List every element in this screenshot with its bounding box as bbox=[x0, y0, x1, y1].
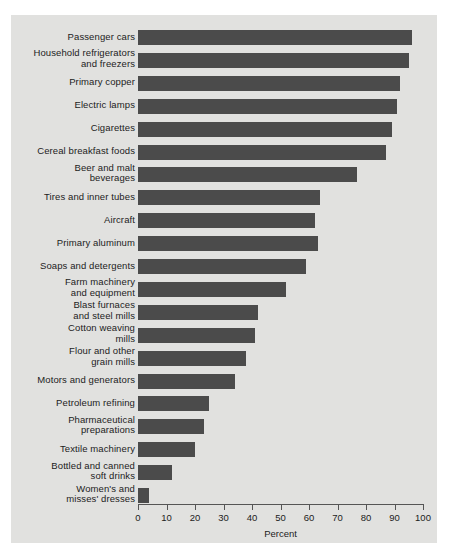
bar-category-label: Blast furnaces and steel mills bbox=[11, 301, 135, 322]
bar bbox=[138, 351, 246, 366]
x-axis-tick-label: 20 bbox=[190, 512, 201, 523]
bar-row: Flour and other grain mills bbox=[11, 346, 437, 369]
x-axis-tick bbox=[423, 504, 424, 510]
bar-category-label: Beer and malt beverages bbox=[11, 163, 135, 184]
x-axis-tick-label: 90 bbox=[389, 512, 400, 523]
bar-category-label: Cereal breakfast foods bbox=[11, 146, 135, 157]
bar-row: Cereal breakfast foods bbox=[11, 140, 437, 163]
bar-row: Primary copper bbox=[11, 71, 437, 94]
bar-category-label: Soaps and detergents bbox=[11, 260, 135, 271]
x-axis-tick-label: 0 bbox=[135, 512, 140, 523]
bar-category-label: Petroleum refining bbox=[11, 398, 135, 409]
bar-row: Primary aluminum bbox=[11, 231, 437, 254]
x-axis-tick-label: 70 bbox=[332, 512, 343, 523]
bar-category-label: Cigarettes bbox=[11, 123, 135, 134]
bar-category-label: Motors and generators bbox=[11, 375, 135, 386]
bar-category-label: Passenger cars bbox=[11, 31, 135, 42]
bar-category-label: Aircraft bbox=[11, 214, 135, 225]
bar-row: Women's and misses' dresses bbox=[11, 483, 437, 506]
bar-category-label: Pharmaceutical preparations bbox=[11, 415, 135, 436]
bar bbox=[138, 282, 286, 297]
bar bbox=[138, 374, 235, 389]
bar-category-label: Primary aluminum bbox=[11, 237, 135, 248]
bar-category-label: Bottled and canned soft drinks bbox=[11, 461, 135, 482]
bar-row: Cotton weaving mills bbox=[11, 323, 437, 346]
bar-row: Bottled and canned soft drinks bbox=[11, 460, 437, 483]
x-axis-tick-label: 60 bbox=[304, 512, 315, 523]
x-axis-tick bbox=[366, 504, 367, 510]
bar-row: Cigarettes bbox=[11, 117, 437, 140]
bar-category-label: Cotton weaving mills bbox=[11, 324, 135, 345]
x-axis-tick bbox=[252, 504, 253, 510]
x-axis-tick bbox=[281, 504, 282, 510]
bar bbox=[138, 53, 409, 68]
bar-category-label: Women's and misses' dresses bbox=[11, 484, 135, 505]
x-axis-tick-label: 50 bbox=[275, 512, 286, 523]
bar bbox=[138, 145, 386, 160]
bar bbox=[138, 465, 172, 480]
bar-category-label: Textile machinery bbox=[11, 443, 135, 454]
x-axis-tick bbox=[224, 504, 225, 510]
bar-row: Electric lamps bbox=[11, 94, 437, 117]
bar bbox=[138, 213, 315, 228]
bar bbox=[138, 236, 318, 251]
x-axis-tick-label: 100 bbox=[415, 512, 431, 523]
x-axis-tick bbox=[338, 504, 339, 510]
bar-row: Farm machinery and equipment bbox=[11, 277, 437, 300]
bar-row: Textile machinery bbox=[11, 437, 437, 460]
chart-panel: Passenger carsHousehold refrigerators an… bbox=[11, 15, 437, 543]
bar-category-label: Farm machinery and equipment bbox=[11, 278, 135, 299]
bar bbox=[138, 259, 306, 274]
x-axis-tick-label: 10 bbox=[161, 512, 172, 523]
x-axis-tick-label: 40 bbox=[247, 512, 258, 523]
x-axis-tick bbox=[395, 504, 396, 510]
bar bbox=[138, 305, 258, 320]
bar bbox=[138, 122, 392, 137]
bar-chart-plot: Passenger carsHousehold refrigerators an… bbox=[11, 15, 437, 543]
bar bbox=[138, 419, 204, 434]
x-axis-tick bbox=[309, 504, 310, 510]
bar-row: Motors and generators bbox=[11, 369, 437, 392]
bar-category-label: Primary copper bbox=[11, 77, 135, 88]
x-axis-tick bbox=[167, 504, 168, 510]
bar-row: Petroleum refining bbox=[11, 391, 437, 414]
bar-row: Aircraft bbox=[11, 208, 437, 231]
bar-row: Passenger cars bbox=[11, 25, 437, 48]
x-axis-tick-label: 80 bbox=[361, 512, 372, 523]
x-axis-tick bbox=[138, 504, 139, 510]
bar bbox=[138, 396, 209, 411]
bar-row: Blast furnaces and steel mills bbox=[11, 300, 437, 323]
x-axis-tick-label: 30 bbox=[218, 512, 229, 523]
x-axis-tick bbox=[195, 504, 196, 510]
bar-row: Tires and inner tubes bbox=[11, 185, 437, 208]
bar bbox=[138, 328, 255, 343]
bar bbox=[138, 99, 397, 114]
bar bbox=[138, 76, 400, 91]
bar-row: Beer and malt beverages bbox=[11, 162, 437, 185]
bar-row: Soaps and detergents bbox=[11, 254, 437, 277]
x-axis-title: Percent bbox=[138, 528, 423, 539]
bar bbox=[138, 190, 320, 205]
bar-category-label: Flour and other grain mills bbox=[11, 347, 135, 368]
bar bbox=[138, 30, 412, 45]
bar-category-label: Tires and inner tubes bbox=[11, 192, 135, 203]
bar-row: Pharmaceutical preparations bbox=[11, 414, 437, 437]
bar bbox=[138, 167, 357, 182]
bar-category-label: Electric lamps bbox=[11, 100, 135, 111]
bar bbox=[138, 488, 149, 503]
bar-row: Household refrigerators and freezers bbox=[11, 48, 437, 71]
bar-category-label: Household refrigerators and freezers bbox=[11, 49, 135, 70]
bar bbox=[138, 442, 195, 457]
